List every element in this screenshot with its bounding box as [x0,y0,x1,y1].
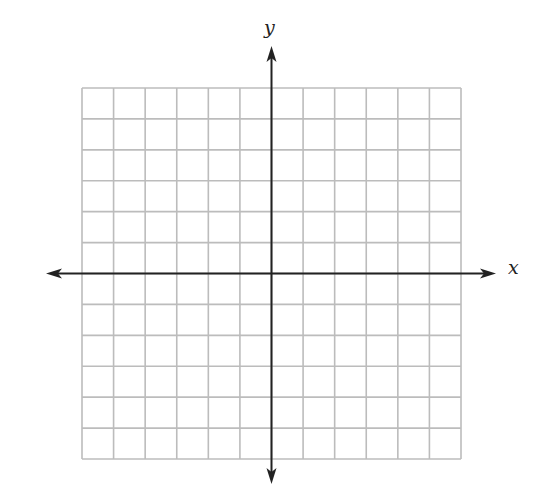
y-axis-label: y [264,18,275,37]
coordinate-grid [0,0,551,495]
coordinate-plane: x y [0,0,551,495]
x-axis-label: x [508,258,519,277]
